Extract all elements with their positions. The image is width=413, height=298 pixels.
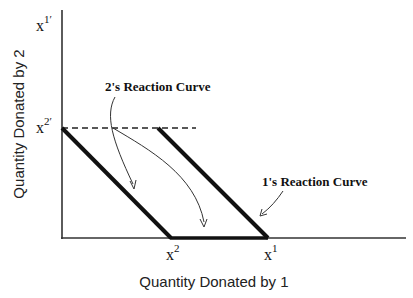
arrow-head-icon: [130, 180, 136, 189]
y-tick-x2-prime: x2′: [36, 115, 52, 136]
arrow-to-curve-1-label: [262, 191, 283, 214]
x-tick-x2: x2: [166, 242, 180, 263]
curve-label-2: 2's Reaction Curve: [105, 79, 211, 94]
reaction-curve-1: [158, 128, 268, 238]
x-axis-label: Quantity Donated by 1: [139, 273, 288, 290]
arrow-to-curve-2: [111, 97, 133, 184]
curve-label-1: 1's Reaction Curve: [262, 174, 368, 189]
arrow-to-curve-1: [113, 128, 204, 222]
y-axis-label: Quantity Donated by 2: [10, 49, 27, 198]
x-tick-x1: x1: [264, 242, 278, 263]
reaction-curve-diagram: Quantity Donated by 2 Quantity Donated b…: [0, 0, 413, 298]
y-tick-x1-prime: x1′: [36, 13, 52, 34]
